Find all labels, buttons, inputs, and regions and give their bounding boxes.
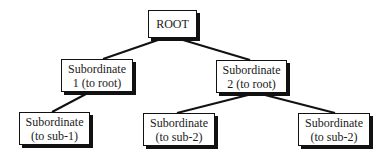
node-label-line2: 2 (to root) <box>227 77 276 91</box>
node-root: ROOT <box>148 10 197 38</box>
node-label-line1: Subordinate <box>305 116 363 130</box>
edge-sub2-leaf2 <box>177 95 248 113</box>
node-label-line1: Subordinate <box>68 62 126 76</box>
node-label-line1: Subordinate <box>26 115 84 129</box>
edge-sub2-leaf3 <box>265 95 335 113</box>
node-subordinate-1: Subordinate 1 (to root) <box>61 59 133 92</box>
node-label-line2: (to sub-2) <box>156 130 203 144</box>
tree-diagram: ROOT Subordinate 1 (to root) Subordinate… <box>0 0 390 157</box>
node-label-line2: 1 (to root) <box>73 76 122 90</box>
node-label-line1: Subordinate <box>150 116 208 130</box>
node-label-line2: (to sub-2) <box>311 130 358 144</box>
node-label-line2: (to sub-1) <box>31 129 78 143</box>
node-leaf-sub2-b: Subordinate (to sub-2) <box>298 113 370 146</box>
edge-root-sub1 <box>103 40 158 59</box>
node-root-label: ROOT <box>156 17 189 31</box>
node-leaf-sub1: Subordinate (to sub-1) <box>19 112 90 145</box>
node-subordinate-2: Subordinate 2 (to root) <box>216 60 287 93</box>
edge-sub1-leaf1 <box>52 94 86 112</box>
node-leaf-sub2-a: Subordinate (to sub-2) <box>143 113 215 146</box>
edge-root-sub2 <box>183 40 250 60</box>
node-label-line1: Subordinate <box>223 63 281 77</box>
